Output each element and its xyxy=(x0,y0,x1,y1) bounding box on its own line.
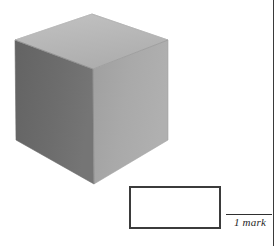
marks-rule xyxy=(226,214,272,215)
answer-box[interactable] xyxy=(129,186,221,229)
cube-figure xyxy=(0,0,185,195)
marks-label: 1 mark xyxy=(226,216,274,229)
exam-question-page: 1 mark xyxy=(0,0,278,246)
page-edge-rule xyxy=(273,0,274,246)
marks-annotation: 1 mark xyxy=(226,214,274,229)
